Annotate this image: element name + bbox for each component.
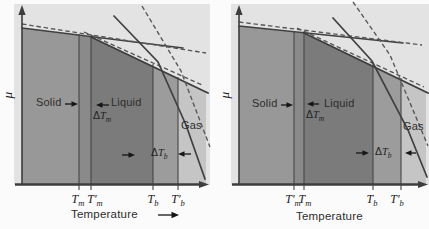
delta-tb-label: ΔTb <box>375 145 392 160</box>
boiling-interval-strip <box>373 66 401 184</box>
tick-tm: Tm <box>294 192 316 208</box>
tick-tb-prime: T′b <box>386 192 408 208</box>
x-axis-label: Temperature <box>296 210 363 222</box>
melting-interval-strip <box>79 35 91 184</box>
gas-region-label: Gas <box>181 119 202 131</box>
x-axis-label: Temperature <box>71 208 138 220</box>
liquid-region-label: Liquid <box>111 96 142 108</box>
phase-diagram-figure: μ Solid Liquid Gas ΔTm ΔTb Tm T′m Tb T′b… <box>0 0 429 229</box>
delta-tm-label: ΔTm <box>306 108 324 123</box>
gas-region-label: Gas <box>403 120 424 132</box>
liquid-region-label: Liquid <box>324 97 355 109</box>
delta-tb-label: ΔTb <box>151 146 168 161</box>
tick-tb-prime: T′b <box>167 192 189 208</box>
tick-tb: Tb <box>142 192 164 208</box>
tick-tb: Tb <box>361 192 383 208</box>
panel-left: μ Solid Liquid Gas ΔTm ΔTb Tm T′m Tb T′b… <box>0 0 213 229</box>
tick-tm-prime: T′m <box>84 192 106 208</box>
delta-tm-label: ΔTm <box>93 109 111 124</box>
temperature-axis-arrow <box>158 212 179 218</box>
y-axis-label: μ <box>0 88 16 102</box>
solid-region-label: Solid <box>252 97 277 109</box>
boiling-interval-strip <box>153 67 178 184</box>
panel-right: μ Solid Liquid Gas ΔTm ΔTb T′m Tm Tb T′b… <box>218 0 429 229</box>
melting-interval-strip <box>294 32 304 184</box>
solid-region-label: Solid <box>36 96 61 108</box>
y-axis-label: μ <box>217 88 233 102</box>
